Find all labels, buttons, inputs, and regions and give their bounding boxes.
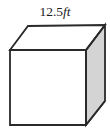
dimension-value: 12.5 <box>39 4 63 19</box>
cube-front-face <box>10 50 86 125</box>
cube-figure: 12.5ft <box>0 0 110 135</box>
dimension-unit: ft <box>63 4 72 19</box>
dimension-label: 12.5ft <box>39 4 71 19</box>
cube-diagram: 12.5ft <box>0 0 110 135</box>
